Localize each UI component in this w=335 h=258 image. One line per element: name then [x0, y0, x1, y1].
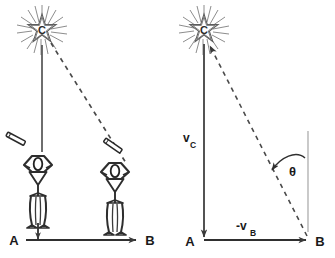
vector-vc-subscript: C [190, 140, 196, 150]
star-label-c-left: C [38, 24, 46, 36]
left-panel: C A B [6, 5, 155, 248]
telescope-icon-a [6, 132, 26, 145]
telescope-icon-b [103, 138, 122, 153]
diagram-canvas: C A B [0, 0, 335, 258]
right-panel: C v C θ -v B A B [179, 5, 325, 249]
label-a-left: A [9, 233, 19, 248]
vector-minus-vb-label: -v [236, 219, 247, 233]
angle-theta-label: θ [289, 164, 296, 179]
vector-vc-label: v [183, 131, 190, 145]
observer-b [101, 138, 129, 235]
label-b-left: B [145, 233, 154, 248]
star-label-c-right: C [200, 24, 208, 36]
vertex-label-a-right: A [185, 234, 195, 249]
observer-a [6, 132, 52, 228]
physics-diagram: C A B [0, 0, 335, 258]
vector-apparent-direction [210, 46, 307, 236]
vector-minus-vb-subscript: B [250, 228, 256, 238]
vertex-label-b-right: B [315, 234, 324, 249]
